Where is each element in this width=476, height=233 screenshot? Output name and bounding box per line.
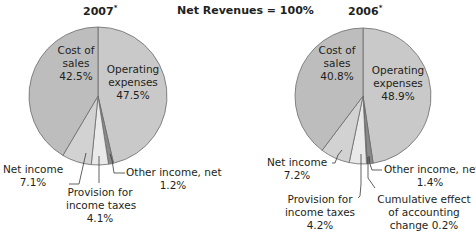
- label-line: Other income, net: [126, 166, 220, 179]
- label-other-income-2006: Other income, net 1.4%: [384, 163, 476, 189]
- label-value: 42.5%: [50, 70, 102, 83]
- label-line: sales: [311, 57, 363, 70]
- label-line: Other income, net: [384, 163, 476, 176]
- label-other-income-2007: Other income, net 1.2%: [126, 166, 220, 192]
- label-value: 7.1%: [2, 176, 64, 189]
- label-cost-of-sales-2007: Cost of sales 42.5%: [50, 44, 102, 83]
- label-line: Operating: [368, 64, 428, 77]
- label-net-income-2007: Net income 7.1%: [2, 163, 64, 189]
- label-net-income-2006: Net income 7.2%: [262, 156, 332, 182]
- label-line: Provision for: [282, 193, 358, 206]
- label-line: income taxes: [66, 199, 134, 212]
- label-line: of accounting: [376, 206, 472, 219]
- label-operating-expenses-2006: Operating expenses 48.9%: [368, 64, 428, 103]
- label-value: 4.2%: [282, 219, 358, 232]
- label-line: change 0.2%: [376, 219, 472, 232]
- label-line: Operating: [103, 63, 163, 76]
- label-line: expenses: [368, 77, 428, 90]
- label-cost-of-sales-2006: Cost of sales 40.8%: [311, 44, 363, 83]
- label-value: 1.4%: [384, 176, 476, 189]
- label-value: 1.2%: [126, 179, 220, 192]
- label-line: Cost of: [311, 44, 363, 57]
- label-line: sales: [50, 57, 102, 70]
- label-provision-2007: Provision for income taxes 4.1%: [66, 186, 134, 225]
- label-line: Cumulative effect: [376, 193, 472, 206]
- label-value: 7.2%: [262, 169, 332, 182]
- label-value: 4.1%: [66, 212, 134, 225]
- label-line: Net income: [262, 156, 332, 169]
- label-line: Cost of: [50, 44, 102, 57]
- label-cumulative-effect-2006: Cumulative effect of accounting change 0…: [376, 193, 472, 232]
- label-line: expenses: [103, 76, 163, 89]
- label-line: income taxes: [282, 206, 358, 219]
- label-provision-2006: Provision for income taxes 4.2%: [282, 193, 358, 232]
- label-operating-expenses-2007: Operating expenses 47.5%: [103, 63, 163, 102]
- label-value: 48.9%: [368, 90, 428, 103]
- label-line: Net income: [2, 163, 64, 176]
- label-line: Provision for: [66, 186, 134, 199]
- label-value: 47.5%: [103, 89, 163, 102]
- label-value: 40.8%: [311, 70, 363, 83]
